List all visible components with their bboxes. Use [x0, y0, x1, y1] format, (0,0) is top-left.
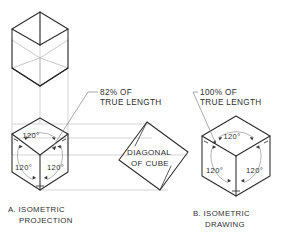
left-cube-arrow-left-bottom: [33, 176, 37, 180]
right-cube-arrow-top-right: [250, 137, 254, 140]
diagonal-corner-tick-top: [135, 122, 147, 146]
right-cube-arrow-right-bottom: [241, 179, 245, 183]
isometric-drawing-figure: 82% OF TRUE LENGTH 100% OF TRUE LENGTH D…: [0, 0, 285, 236]
isometric-projection-cube: [12, 118, 68, 190]
right-cube-angle-arc-right: [245, 146, 262, 183]
top-view-edge-lower-right: [40, 68, 68, 86]
right-cube-arrow-right-top: [256, 146, 260, 150]
text-labels-group: 82% OF TRUE LENGTH 100% OF TRUE LENGTH D…: [8, 88, 263, 229]
right-cube-arrow-left-bottom: [228, 179, 232, 183]
caption-a-line2: PROJECTION: [19, 216, 73, 225]
caption-b-line1: B. ISOMETRIC: [193, 209, 250, 218]
note-left-line1: 82% OF: [100, 88, 132, 97]
right-cube-edge-upper-right: [236, 136, 270, 156]
angle-label-left-top: 120°: [22, 131, 39, 140]
left-cube-arrow-right-top: [57, 145, 61, 149]
technical-drawing-canvas: 82% OF TRUE LENGTH 100% OF TRUE LENGTH D…: [0, 0, 285, 236]
left-cube-arrow-top-right: [52, 137, 56, 140]
diagonal-label-line2: OF CUBE: [131, 159, 169, 168]
angle-label-right-top: 120°: [223, 132, 240, 141]
angle-label-left-lower-right: 120°: [47, 163, 64, 172]
diagonal-label-line1: DIAGONAL: [127, 148, 171, 157]
caption-a-line1: A. ISOMETRIC: [8, 205, 65, 214]
note-right-line1: 100% OF: [200, 88, 237, 97]
note-left-line2: TRUE LENGTH: [100, 98, 162, 107]
angle-label-right-lower-right: 120°: [246, 166, 263, 175]
left-cube-arrow-left-top: [19, 145, 23, 149]
note-right-line2: TRUE LENGTH: [200, 98, 262, 107]
right-cube-arrow-top-left: [219, 137, 223, 140]
right-cube-arrow-left-top: [213, 146, 217, 150]
caption-b-line2: DRAWING: [205, 220, 245, 229]
left-cube-tick-left: [14, 139, 18, 141]
right-cube-tick-left: [204, 141, 208, 143]
angle-label-right-lower-left: 120°: [206, 166, 223, 175]
right-cube-tick-right: [264, 141, 268, 143]
right-cube-angle-arc-left: [211, 146, 228, 183]
angle-label-left-lower-left: 120°: [15, 163, 32, 172]
leader-left-slant: [52, 92, 88, 148]
left-cube-arrow-right-bottom: [44, 176, 48, 180]
top-view-edge-lower-left: [12, 68, 40, 86]
isometric-drawing-cube: [202, 116, 270, 196]
left-cube-tick-right: [62, 139, 66, 141]
